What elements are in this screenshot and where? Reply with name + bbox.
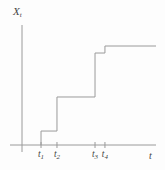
y-axis-label-base: X: [13, 5, 20, 17]
step-function-figure: Xt t t1t2t3t4: [0, 0, 165, 170]
x-tick-label-4: t4: [102, 150, 108, 161]
plot-canvas: [0, 0, 165, 170]
x-tick-label-1: t1: [38, 150, 44, 161]
step-function-path: [41, 46, 156, 145]
y-axis-label: Xt: [13, 6, 22, 19]
x-axis-label: t: [149, 151, 152, 161]
x-tick-label-3: t3: [92, 150, 98, 161]
x-tick-label-2: t2: [54, 150, 60, 161]
y-axis-label-subscript: t: [20, 11, 22, 19]
